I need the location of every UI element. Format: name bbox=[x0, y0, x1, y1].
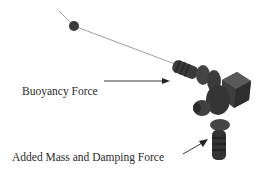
tether-cable bbox=[59, 11, 175, 64]
rov-body bbox=[171, 59, 251, 160]
buoyancy-force-label: Buoyancy Force bbox=[22, 85, 98, 97]
diagram-canvas: Buoyancy Force Added Mass and Damping Fo… bbox=[0, 0, 266, 174]
added-mass-damping-label: Added Mass and Damping Force bbox=[12, 151, 164, 163]
buoyancy-arrow bbox=[104, 78, 170, 84]
added-mass-arrow bbox=[183, 139, 208, 154]
float-ball bbox=[69, 21, 79, 31]
